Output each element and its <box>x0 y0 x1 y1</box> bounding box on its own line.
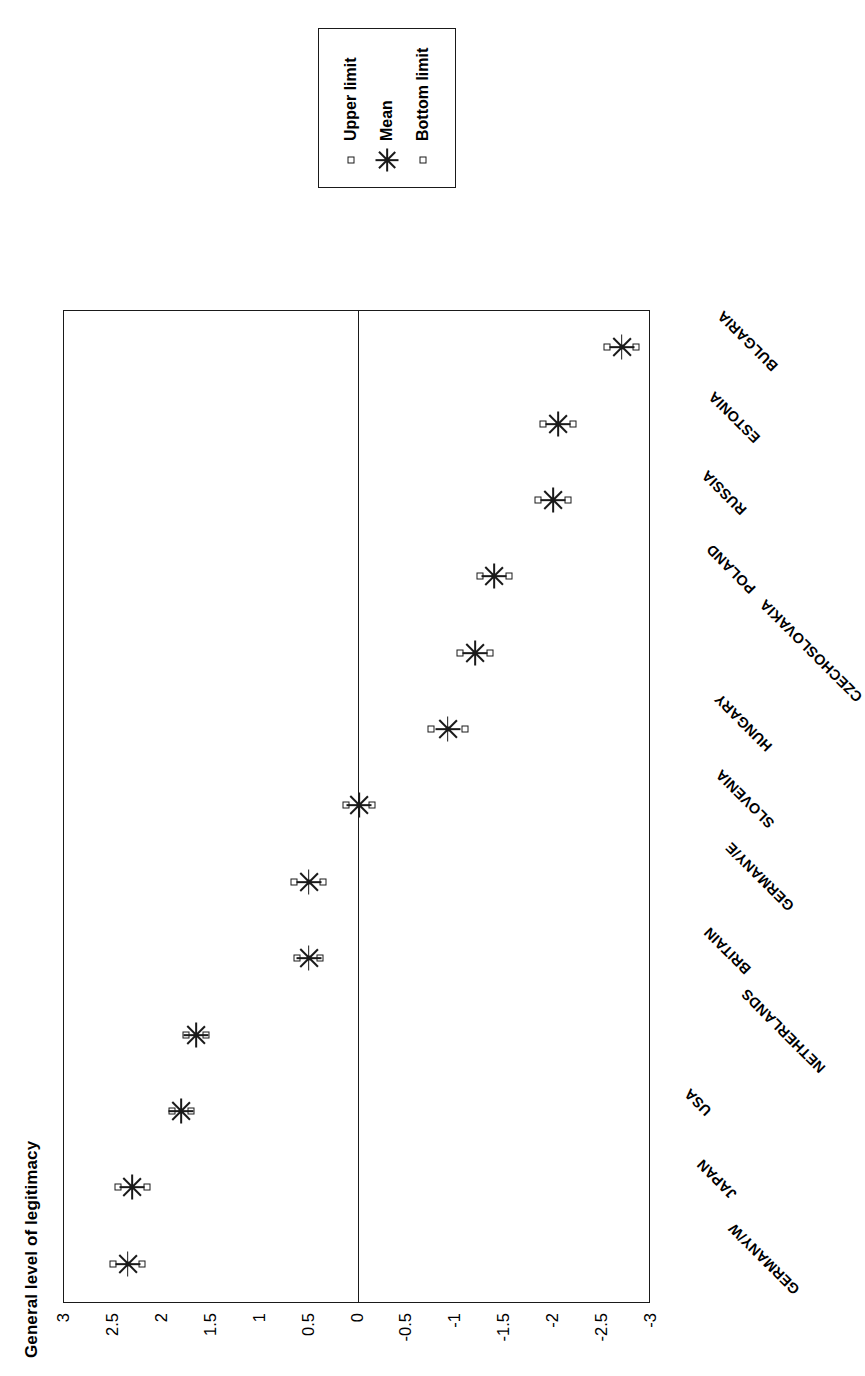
mean-marker <box>435 716 461 742</box>
star-marker-icon <box>374 145 400 175</box>
value-axis-tick-label: -1 <box>445 1313 464 1328</box>
chart-legend: Upper limit Mean Bottom limit <box>318 28 456 188</box>
mean-marker <box>119 1174 145 1200</box>
upper-limit-marker <box>427 726 434 733</box>
mean-marker <box>462 640 488 666</box>
mean-marker <box>168 1098 194 1124</box>
value-axis-tick-label: -2.5 <box>592 1313 611 1341</box>
value-axis-tick-label: 3 <box>54 1313 73 1322</box>
legend-item-bottom-limit: Bottom limit <box>405 45 441 175</box>
value-axis-tick-label: 0 <box>347 1313 366 1322</box>
value-axis-tick-label: 0.5 <box>298 1313 317 1336</box>
category-axis-tick-label: RUSSIA <box>699 467 750 518</box>
category-axis-tick-label: USA <box>681 1086 714 1119</box>
category-axis-tick-label: ESTONIA <box>705 388 763 446</box>
mean-marker <box>346 793 372 819</box>
legend-label-upper-limit: Upper limit <box>342 57 360 145</box>
legend-item-mean: Mean <box>369 45 405 175</box>
square-marker-icon <box>410 145 436 175</box>
legend-item-upper-limit: Upper limit <box>333 45 369 175</box>
mean-marker <box>115 1251 141 1277</box>
category-axis-tick-label: GERMANY/W <box>725 1220 803 1298</box>
value-axis-tick-label: 2.5 <box>102 1313 121 1336</box>
value-axis-tick-label: -3 <box>641 1313 660 1328</box>
category-axis-tick-label: NETHERLANDS <box>738 986 828 1076</box>
plot-area <box>63 310 650 1303</box>
legend-label-bottom-limit: Bottom limit <box>414 48 432 145</box>
category-axis-tick-label: POLAND <box>703 542 758 597</box>
mean-marker <box>609 334 635 360</box>
category-axis-tick-label: HUNGARY <box>711 691 775 755</box>
legend-label-mean: Mean <box>378 100 396 145</box>
mean-marker <box>296 869 322 895</box>
mean-marker <box>545 411 571 437</box>
category-axis-tick-label: JAPAN <box>694 1157 740 1203</box>
value-axis-tick-label: -0.5 <box>396 1313 415 1341</box>
mean-marker <box>540 487 566 513</box>
category-axis-tick-label: BRITAIN <box>701 925 754 978</box>
value-axis-tick-label: -1.5 <box>494 1313 513 1341</box>
category-axis-tick-label: CZECHOSLOVAKIA <box>756 596 865 705</box>
value-axis-tick-label: 2 <box>151 1313 170 1322</box>
bottom-limit-marker <box>462 726 469 733</box>
value-axis-tick-label: 1 <box>249 1313 268 1322</box>
value-axis-tick-label: 1.5 <box>200 1313 219 1336</box>
square-marker-icon <box>338 145 364 175</box>
category-axis-tick-label: BULGARIA <box>714 308 781 375</box>
page-title: General level of legitimacy <box>22 1141 42 1358</box>
category-axis-tick-label: SLOVENIA <box>713 767 778 832</box>
mean-marker <box>296 945 322 971</box>
mean-marker <box>183 1022 209 1048</box>
mean-marker <box>481 563 507 589</box>
value-axis-tick-label: -2 <box>543 1313 562 1328</box>
category-axis-tick-label: GERMANY/E <box>722 839 797 914</box>
